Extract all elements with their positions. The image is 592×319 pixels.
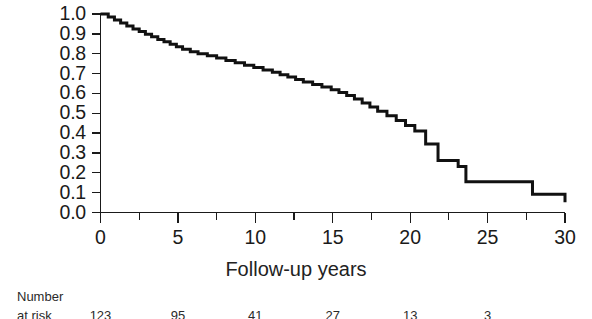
- risk-value: 95: [148, 308, 208, 319]
- risk-value: 123: [71, 308, 131, 319]
- y-tick-label: 0.3: [30, 143, 86, 163]
- y-tick-label: 0.4: [30, 123, 86, 143]
- risk-table-row: at risk 123954127133: [0, 308, 592, 319]
- x-tick-label: 20: [380, 228, 440, 248]
- x-axis-ticks: [101, 213, 566, 223]
- y-tick-label: 0.5: [30, 103, 86, 123]
- y-tick-label: 0.6: [30, 83, 86, 103]
- y-tick-label: 0.2: [30, 163, 86, 183]
- y-tick-label: 0.0: [30, 203, 86, 223]
- y-axis-ticks: [92, 14, 101, 213]
- risk-value: 13: [380, 308, 440, 319]
- y-tick-label: 0.9: [30, 24, 86, 44]
- x-tick-label: 5: [148, 228, 208, 248]
- y-tick-label: 0.7: [30, 64, 86, 84]
- risk-table-title: Number: [17, 289, 63, 304]
- x-tick-label: 25: [458, 228, 518, 248]
- survival-curve: [101, 14, 566, 202]
- y-tick-label: 1.0: [30, 4, 86, 24]
- x-axis-label: Follow-up years: [0, 258, 592, 281]
- x-tick-label: 10: [225, 228, 285, 248]
- risk-value: 3: [458, 308, 518, 319]
- y-tick-label: 0.8: [30, 44, 86, 64]
- x-tick-label: 0: [71, 228, 131, 248]
- risk-value: 41: [225, 308, 285, 319]
- risk-value: 27: [303, 308, 363, 319]
- y-tick-label: 0.1: [30, 183, 86, 203]
- x-tick-label: 30: [535, 228, 592, 248]
- risk-row-label: at risk: [17, 308, 52, 319]
- x-tick-label: 15: [303, 228, 363, 248]
